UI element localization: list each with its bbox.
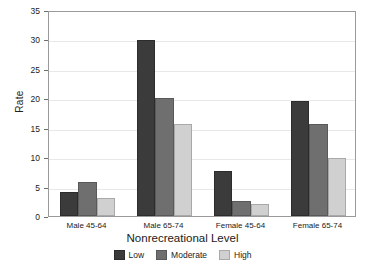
y-tick-mark — [44, 217, 48, 218]
bar-low-male-45-64 — [60, 192, 79, 216]
x-tick-label: Male 45-64 — [48, 221, 125, 230]
bar-low-male-65-74 — [137, 40, 156, 216]
legend-label: Low — [129, 250, 145, 260]
x-axis-title: Nonrecreational Level — [0, 232, 365, 244]
y-tick-label: 35 — [4, 6, 40, 16]
legend-swatch-icon — [156, 250, 167, 260]
legend-item-high: High — [219, 250, 251, 260]
legend-swatch-icon — [219, 250, 230, 260]
legend-label: Moderate — [171, 250, 207, 260]
bar-moderate-male-65-74 — [155, 98, 174, 216]
legend-item-moderate: Moderate — [156, 250, 207, 260]
bar-series-container — [49, 12, 355, 216]
legend-swatch-icon — [114, 250, 125, 260]
plot-area — [48, 11, 356, 217]
y-tick-label: 25 — [4, 65, 40, 75]
bar-low-female-65-74 — [291, 101, 310, 216]
y-tick-label: 30 — [4, 35, 40, 45]
bar-moderate-female-65-74 — [309, 124, 328, 216]
bar-chart-figure: Rate 05101520253035 Male 45-64Male 65-74… — [0, 0, 365, 268]
legend-item-low: Low — [114, 250, 145, 260]
y-tick-label: 20 — [4, 94, 40, 104]
x-tick-label: Female 65-74 — [279, 221, 356, 230]
bar-moderate-male-45-64 — [78, 182, 97, 216]
legend-label: High — [234, 250, 251, 260]
bar-group — [203, 12, 280, 216]
x-tick-label: Female 45-64 — [202, 221, 279, 230]
bar-group — [49, 12, 126, 216]
bar-group — [126, 12, 203, 216]
y-tick-label: 5 — [4, 183, 40, 193]
bar-high-male-65-74 — [174, 124, 193, 216]
bar-high-female-65-74 — [328, 158, 347, 216]
y-tick-label: 15 — [4, 124, 40, 134]
chart-legend: LowModerateHigh — [0, 250, 365, 260]
bar-low-female-45-64 — [214, 171, 233, 216]
y-tick-label: 10 — [4, 153, 40, 163]
bar-group — [280, 12, 357, 216]
bar-moderate-female-45-64 — [232, 201, 251, 216]
x-tick-label: Male 65-74 — [125, 221, 202, 230]
bar-high-male-45-64 — [97, 198, 116, 216]
y-tick-label: 0 — [4, 212, 40, 222]
bar-high-female-45-64 — [251, 204, 270, 216]
